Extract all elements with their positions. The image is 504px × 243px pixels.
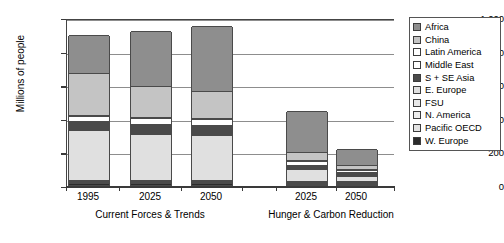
bar-segment [192,182,232,183]
legend: AfricaChinaLatin AmericaMiddle EastS + S… [409,17,501,151]
legend-item-fsu: FSU [413,97,498,110]
bar-segment [192,180,232,181]
x-tick-mark [336,186,337,191]
bar-segment [337,170,377,172]
bar-segment [287,184,327,185]
legend-swatch-icon [413,74,421,82]
bar-2050-2 [191,27,233,186]
x-tick-mark [394,186,395,191]
bar-segment [131,182,171,183]
legend-label: W. Europe [425,136,468,146]
legend-label: N. America [425,110,470,120]
bar-segment [337,172,377,176]
legend-item-n-america: N. America [413,109,498,122]
x-tick-label: 1995 [53,191,123,202]
bar-segment [337,184,377,185]
x-tick-mark [66,186,67,191]
stacked-bar-chart: Millions of people 02004006008001,000 19… [0,0,504,243]
legend-item-middle-east: Middle East [413,59,498,72]
bar-segment [69,121,109,129]
bar-segment [192,181,232,182]
bar-segment [69,130,109,180]
bar-segment [69,73,109,115]
x-tick-mark [181,186,182,191]
legend-swatch-icon [413,48,421,56]
bar-segment [131,134,171,180]
bar-segment [192,26,232,90]
x-axis-line [66,186,394,188]
legend-label: S + SE Asia [425,73,474,83]
group-label: Current Forces & Trends [50,209,250,220]
bar-segment [131,183,171,185]
legend-swatch-icon [413,61,421,69]
bar-segment [131,180,171,181]
y-axis-title: Millions of people [15,0,26,149]
legend-swatch-icon [413,23,421,31]
plot-area [66,19,394,187]
bar-segment [131,181,171,182]
x-tick-label: 2050 [176,191,246,202]
bar-segment [287,169,327,181]
legend-label: Africa [425,22,449,32]
legend-label: E. Europe [425,85,466,95]
x-tick-mark [119,186,120,191]
bar-segment [69,182,109,183]
bar-segment [131,124,171,134]
bar-2025-3 [286,112,328,186]
legend-item-africa: Africa [413,21,498,34]
bar-segment [192,135,232,180]
bar-segment [287,152,327,160]
bar-segment [192,125,232,135]
legend-swatch-icon [413,111,421,119]
legend-label: Pacific OECD [425,123,482,133]
bar-segment [192,91,232,118]
legend-swatch-icon [413,99,421,107]
legend-swatch-icon [413,36,421,44]
bar-segment [131,86,171,118]
legend-item-w-europe: W. Europe [413,134,498,147]
legend-item-pacific-oecd: Pacific OECD [413,122,498,135]
bar-segment [131,118,171,123]
bar-segment [69,115,109,116]
legend-swatch-icon [413,137,421,145]
bar-1995-0 [68,36,110,186]
legend-item-china: China [413,34,498,47]
bar-2050-4 [336,150,378,186]
bar-segment [192,119,232,125]
bar-segment [287,161,327,164]
x-tick-mark [242,186,243,191]
bar-segment [192,183,232,185]
gridline [67,20,394,21]
bar-segment [287,183,327,184]
legend-label: FSU [425,98,444,108]
bar-segment [69,181,109,182]
bar-segment [131,117,171,118]
bar-segment [337,165,377,169]
bar-segment [337,149,377,165]
legend-item-s-se-asia: S + SE Asia [413,71,498,84]
x-tick-label: 2050 [321,191,391,202]
bar-segment [69,183,109,185]
bar-segment [337,183,377,184]
legend-label: China [425,35,449,45]
legend-swatch-icon [413,124,421,132]
bar-segment [69,180,109,181]
x-tick-label: 2025 [115,191,185,202]
bar-segment [192,118,232,119]
bar-segment [131,31,171,86]
x-tick-mark [276,186,277,191]
bar-segment [69,35,109,73]
legend-item-latin-america: Latin America [413,46,498,59]
legend-label: Latin America [425,47,481,57]
bar-2025-1 [130,32,172,186]
y-tick-label: 0 [446,182,504,192]
bar-segment [337,176,377,181]
bar-segment [287,165,327,169]
legend-item-e-europe: E. Europe [413,84,498,97]
legend-label: Middle East [425,60,474,70]
bar-segment [287,111,327,152]
group-label: Hunger & Carbon Reduction [231,209,431,220]
bar-segment [69,116,109,121]
legend-swatch-icon [413,86,421,94]
